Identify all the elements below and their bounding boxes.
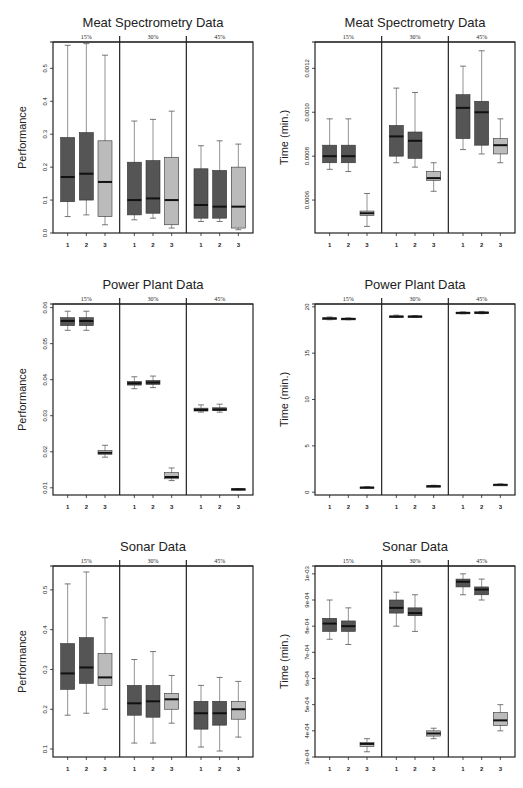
- y-tick-label: 0.0: [42, 228, 48, 237]
- box: [408, 608, 422, 616]
- y-tick-label: 5: [304, 444, 310, 448]
- y-tick-label: 6e-04: [304, 670, 310, 686]
- group-label: 45%: [476, 558, 487, 564]
- box: [213, 170, 227, 218]
- y-tick-label: 0.1: [42, 744, 48, 753]
- y-tick-label: 1e-03: [304, 566, 310, 582]
- y-tick-label: 10: [304, 396, 310, 403]
- box: [98, 654, 112, 686]
- x-tick-label: 2: [218, 766, 222, 772]
- group-label: 15%: [81, 296, 92, 302]
- x-tick-label: 3: [499, 766, 503, 772]
- x-tick-label: 2: [218, 242, 222, 248]
- x-tick-label: 1: [133, 504, 137, 510]
- x-tick-label: 3: [237, 242, 241, 248]
- group-label: 45%: [214, 558, 225, 564]
- chart-title: Power Plant Data: [102, 277, 204, 292]
- x-tick-label: 1: [395, 504, 399, 510]
- box: [79, 638, 93, 684]
- box: [165, 157, 179, 225]
- y-tick-label: 0.4: [42, 625, 48, 634]
- y-tick-label: 0.01: [42, 481, 48, 493]
- x-tick-label: 3: [103, 504, 107, 510]
- x-tick-label: 3: [499, 504, 503, 510]
- y-axis-label: Performance: [16, 106, 28, 169]
- x-tick-label: 2: [85, 242, 89, 248]
- plot-frame: [53, 304, 253, 495]
- y-tick-label: 0.1: [42, 195, 48, 204]
- x-tick-label: 2: [347, 766, 351, 772]
- x-tick-label: 2: [480, 504, 484, 510]
- y-tick-label: 0.05: [42, 337, 48, 349]
- x-tick-label: 1: [133, 766, 137, 772]
- x-tick-label: 2: [151, 504, 155, 510]
- x-tick-label: 1: [199, 242, 203, 248]
- x-tick-label: 2: [480, 766, 484, 772]
- x-tick-label: 3: [365, 504, 369, 510]
- y-axis-label: Time (min.): [278, 372, 290, 427]
- chart-power-performance: Power Plant DataPerformance15%12330%1234…: [0, 262, 261, 524]
- group-label: 30%: [410, 558, 421, 564]
- y-tick-label: 0.2: [42, 162, 48, 171]
- y-tick-label: 0.2: [42, 704, 48, 713]
- group-label: 45%: [476, 34, 487, 40]
- box: [456, 95, 470, 139]
- chart-sonar-performance: Sonar DataPerformance15%12330%12345%1230…: [0, 524, 261, 786]
- y-tick-label: 0.0008: [304, 146, 310, 165]
- y-axis-label: Performance: [16, 368, 28, 431]
- x-tick-label: 3: [499, 242, 503, 248]
- chart-title: Meat Spectrometry Data: [83, 15, 225, 30]
- box: [146, 161, 160, 214]
- y-axis-label: Time (min.): [278, 110, 290, 165]
- x-tick-label: 3: [432, 242, 436, 248]
- chart-meat-performance: Meat Spectrometry DataPerformance15%1233…: [0, 0, 261, 262]
- x-tick-label: 2: [413, 766, 417, 772]
- box: [194, 169, 208, 218]
- group-label: 45%: [214, 34, 225, 40]
- chart-title: Sonar Data: [382, 539, 449, 554]
- box: [231, 167, 245, 228]
- box: [61, 138, 75, 202]
- group-label: 15%: [343, 34, 354, 40]
- group-label: 30%: [410, 34, 421, 40]
- x-tick-label: 1: [328, 242, 332, 248]
- y-tick-label: 0.0006: [304, 190, 310, 209]
- chart-title: Meat Spectrometry Data: [345, 15, 487, 30]
- box: [127, 162, 141, 215]
- y-tick-label: 20: [304, 303, 310, 310]
- box: [98, 141, 112, 217]
- box: [475, 101, 489, 145]
- group-label: 45%: [476, 296, 487, 302]
- y-tick-label: 0: [304, 490, 310, 494]
- group-label: 15%: [343, 558, 354, 564]
- box: [79, 133, 93, 201]
- x-tick-label: 1: [461, 242, 465, 248]
- x-tick-label: 1: [328, 504, 332, 510]
- y-tick-label: 0.04: [42, 373, 48, 385]
- y-tick-label: 4e-04: [304, 723, 310, 739]
- x-tick-label: 2: [85, 504, 89, 510]
- y-tick-label: 0.0012: [304, 59, 310, 78]
- x-tick-label: 2: [151, 242, 155, 248]
- x-tick-label: 2: [413, 242, 417, 248]
- x-tick-label: 1: [199, 504, 203, 510]
- x-tick-label: 3: [365, 242, 369, 248]
- group-label: 30%: [148, 296, 159, 302]
- chart-title: Sonar Data: [120, 539, 187, 554]
- box: [475, 587, 489, 595]
- x-tick-label: 1: [199, 766, 203, 772]
- x-tick-label: 1: [66, 242, 70, 248]
- x-tick-label: 2: [85, 766, 89, 772]
- group-label: 15%: [343, 296, 354, 302]
- x-tick-label: 2: [218, 504, 222, 510]
- x-tick-label: 1: [395, 766, 399, 772]
- y-tick-label: 0.0010: [304, 102, 310, 121]
- chart-sonar-time: Sonar DataTime (min.)15%12330%12345%1233…: [262, 524, 523, 786]
- box: [408, 132, 422, 158]
- group-label: 30%: [148, 34, 159, 40]
- x-tick-label: 3: [170, 504, 174, 510]
- chart-meat-time: Meat Spectrometry DataTime (min.)15%1233…: [262, 0, 523, 262]
- box: [165, 693, 179, 709]
- plot-frame: [315, 304, 515, 495]
- x-tick-label: 3: [237, 504, 241, 510]
